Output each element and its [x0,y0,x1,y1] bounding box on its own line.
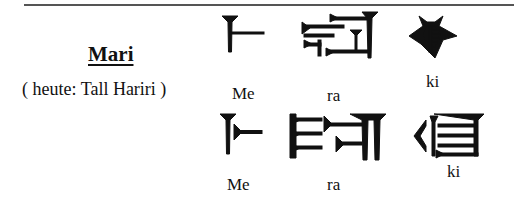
top-rule [24,4,514,6]
sign-label-me: Me [232,84,255,104]
cuneiform-ki-icon [405,12,463,62]
sign-label-ra: ra [327,175,340,195]
sign-label-ra: ra [327,86,340,106]
modern-name: ( heute: Tall Hariri ) [22,79,166,100]
cuneiform-ki-icon [412,112,488,162]
place-title: Mari [88,42,133,67]
cuneiform-ra-icon [288,112,388,162]
sign-label-me: Me [227,175,250,195]
cuneiform-me-icon [218,112,268,158]
cuneiform-me-icon [220,14,270,56]
cuneiform-ra-icon [300,10,380,62]
sign-label-ki: ki [426,72,439,92]
sign-label-ki: ki [447,162,460,182]
